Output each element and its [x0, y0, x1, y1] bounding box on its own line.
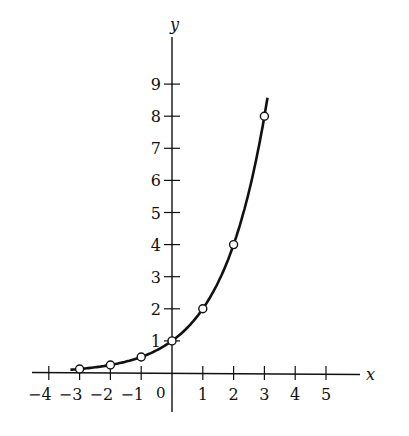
- y-tick-label: 9: [151, 75, 161, 94]
- x-tick-label: −4: [28, 385, 52, 404]
- x-tick-label: 2: [229, 385, 239, 404]
- x-tick-label: −3: [59, 385, 83, 404]
- x-tick-label: 3: [259, 385, 269, 404]
- y-tick-label: 7: [151, 139, 161, 158]
- y-tick-label: 3: [151, 268, 161, 287]
- data-point: [76, 365, 84, 373]
- tick-labels: −4−3−2−112345123456789: [28, 75, 331, 404]
- y-tick-label: 5: [151, 204, 161, 223]
- origin-label: 0: [156, 384, 166, 402]
- axes: [32, 37, 360, 412]
- y-tick-label: 8: [151, 107, 161, 126]
- exponential-chart: −4−3−2−112345123456789 x y 0: [0, 0, 409, 436]
- curve-line: [70, 98, 267, 370]
- ticks: [49, 84, 326, 380]
- data-point: [260, 112, 268, 120]
- data-point: [230, 241, 238, 249]
- data-point: [199, 305, 207, 313]
- data-point: [106, 361, 114, 369]
- y-axis-label: y: [169, 15, 180, 34]
- data-point: [168, 337, 176, 345]
- x-tick-label: −2: [90, 385, 114, 404]
- data-point: [137, 353, 145, 361]
- x-tick-label: 1: [198, 385, 208, 404]
- x-tick-label: −1: [120, 385, 144, 404]
- x-axis-label: x: [366, 365, 375, 384]
- x-tick-label: 5: [321, 385, 331, 404]
- y-tick-label: 2: [151, 300, 161, 319]
- y-tick-label: 4: [151, 236, 161, 255]
- x-tick-label: 4: [290, 385, 300, 404]
- y-tick-label: 6: [151, 171, 161, 190]
